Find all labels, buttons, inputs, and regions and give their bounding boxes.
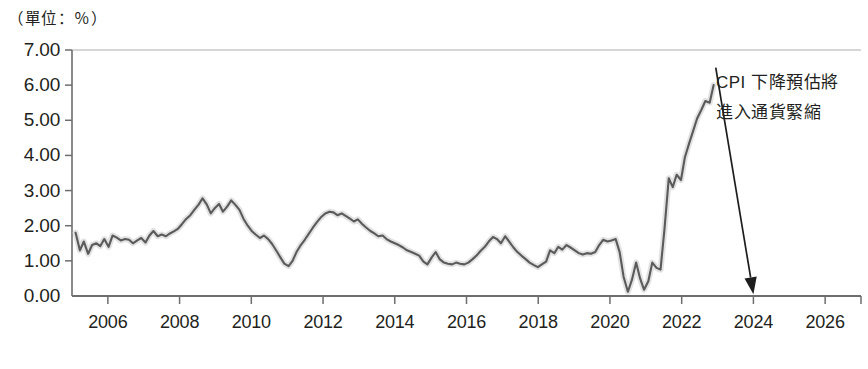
forecast-arrow-head: [745, 276, 757, 294]
y-axis-tick-label: 5.00: [4, 109, 60, 131]
y-axis-tick-label: 6.00: [4, 74, 60, 96]
annotation-line-1: CPI 下降預估將: [716, 68, 839, 98]
x-axis-tick-label: 2018: [508, 312, 568, 333]
y-axis-tick-label: 2.00: [4, 215, 60, 237]
cpi-series-line: [76, 85, 714, 292]
y-axis-tick-label: 4.00: [4, 144, 60, 166]
x-axis-tick-label: 2024: [723, 312, 783, 333]
annotation-line-2: 進入通貨緊縮: [716, 98, 839, 128]
forecast-annotation: CPI 下降預估將 進入通貨緊縮: [716, 68, 839, 128]
x-axis-tick-label: 2010: [221, 312, 281, 333]
x-axis-tick-label: 2026: [795, 312, 855, 333]
y-axis-tick-label: 0.00: [4, 285, 60, 307]
y-axis-tick-label: 3.00: [4, 180, 60, 202]
x-axis-tick-label: 2016: [437, 312, 497, 333]
x-axis-tick-label: 2022: [652, 312, 712, 333]
x-axis-tick-label: 2006: [78, 312, 138, 333]
y-axis-tick-label: 7.00: [4, 39, 60, 61]
y-axis-tick-label: 1.00: [4, 250, 60, 272]
x-axis-tick-label: 2014: [365, 312, 425, 333]
x-axis-tick-label: 2020: [580, 312, 640, 333]
cpi-line-chart: （單位：％） 0.001.002.003.004.005.006.007.00 …: [0, 0, 868, 369]
x-axis-tick-label: 2008: [150, 312, 210, 333]
x-axis-tick-label: 2012: [293, 312, 353, 333]
